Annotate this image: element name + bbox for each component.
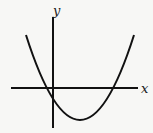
- parabola-curve: [26, 35, 134, 120]
- x-axis-label: x: [141, 81, 149, 96]
- parabola-chart: y x: [0, 0, 153, 133]
- y-axis-label: y: [52, 3, 61, 18]
